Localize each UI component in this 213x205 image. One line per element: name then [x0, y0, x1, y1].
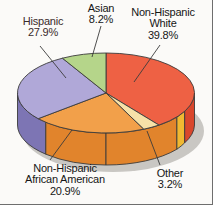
- slice-value: 27.9%: [6, 27, 80, 38]
- slice-label-non-hispanic-african-american: Non-Hispanic African American 20.9%: [3, 163, 127, 197]
- slice-value: 8.2%: [73, 14, 129, 25]
- pie-chart-figure: Non-Hispanic White 39.8% Hispanic 27.9% …: [0, 0, 213, 205]
- slice-value: 3.2%: [140, 179, 200, 190]
- leader-line-asian: [92, 26, 101, 57]
- slice-label-asian: Asian 8.2%: [73, 3, 129, 26]
- pie-top-face: [17, 53, 194, 133]
- slice-label-other: Other 3.2%: [140, 168, 200, 191]
- slice-value: 20.9%: [3, 186, 127, 197]
- slice-value: 39.8%: [118, 30, 208, 41]
- slice-label-hispanic: Hispanic 27.9%: [6, 16, 80, 39]
- slice-label-non-hispanic-white: Non-Hispanic White 39.8%: [118, 7, 208, 41]
